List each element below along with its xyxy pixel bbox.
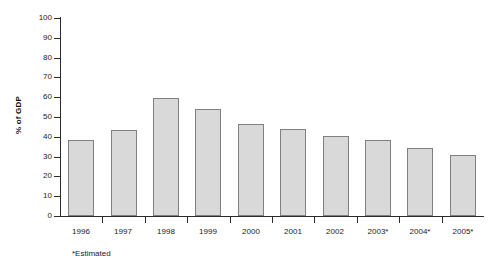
y-tick-label: 60 <box>6 93 52 101</box>
y-tick-mark <box>54 196 61 197</box>
chart-footnote: *Estimated <box>72 249 111 258</box>
y-tick-mark <box>54 117 61 118</box>
x-axis-label: 2005* <box>442 227 484 236</box>
x-tick-mark <box>230 217 231 223</box>
y-tick-mark <box>54 137 61 138</box>
bar-2005-est <box>450 155 476 216</box>
y-tick-label: 50 <box>6 113 52 121</box>
bar-1999 <box>195 109 221 216</box>
x-tick-mark <box>357 217 358 223</box>
y-tick-label: 30 <box>6 153 52 161</box>
y-tick-mark <box>54 58 61 59</box>
x-axis-label: 1997 <box>102 227 144 236</box>
x-axis-label: 1999 <box>187 227 229 236</box>
y-tick-mark <box>54 97 61 98</box>
y-tick-label: 10 <box>6 192 52 200</box>
bar-2003-est <box>365 140 391 216</box>
y-tick-mark <box>54 216 61 217</box>
x-axis-label: 2003* <box>357 227 399 236</box>
x-axis-label: 2002 <box>314 227 356 236</box>
x-tick-mark <box>399 217 400 223</box>
y-tick-label: 40 <box>6 133 52 141</box>
x-axis-label: 2004* <box>399 227 441 236</box>
bar-1997 <box>111 130 137 216</box>
y-tick-label: 0 <box>6 212 52 220</box>
y-tick-label: 20 <box>6 172 52 180</box>
bar-chart: % of GDP 0102030405060708090100 19961997… <box>0 0 501 279</box>
x-tick-mark <box>102 217 103 223</box>
y-tick-mark <box>54 18 61 19</box>
x-axis-label: 1998 <box>145 227 187 236</box>
y-tick-mark <box>54 176 61 177</box>
y-tick-mark <box>54 77 61 78</box>
x-tick-mark <box>187 217 188 223</box>
x-tick-mark <box>442 217 443 223</box>
x-tick-mark <box>314 217 315 223</box>
y-tick-label: 80 <box>6 54 52 62</box>
x-tick-mark <box>272 217 273 223</box>
y-tick-label: 70 <box>6 73 52 81</box>
bar-1996 <box>68 140 94 216</box>
y-tick-mark <box>54 38 61 39</box>
x-axis-label: 2000 <box>230 227 272 236</box>
bar-2002 <box>323 136 349 216</box>
y-tick-label: 90 <box>6 34 52 42</box>
y-tick-label: 100 <box>6 14 52 22</box>
bar-2001 <box>280 129 306 216</box>
x-axis-label: 1996 <box>60 227 102 236</box>
bar-2004-est <box>407 148 433 216</box>
bar-2000 <box>238 124 264 216</box>
x-axis-label: 2001 <box>272 227 314 236</box>
x-tick-mark <box>145 217 146 223</box>
y-tick-mark <box>54 157 61 158</box>
bar-1998 <box>153 98 179 216</box>
